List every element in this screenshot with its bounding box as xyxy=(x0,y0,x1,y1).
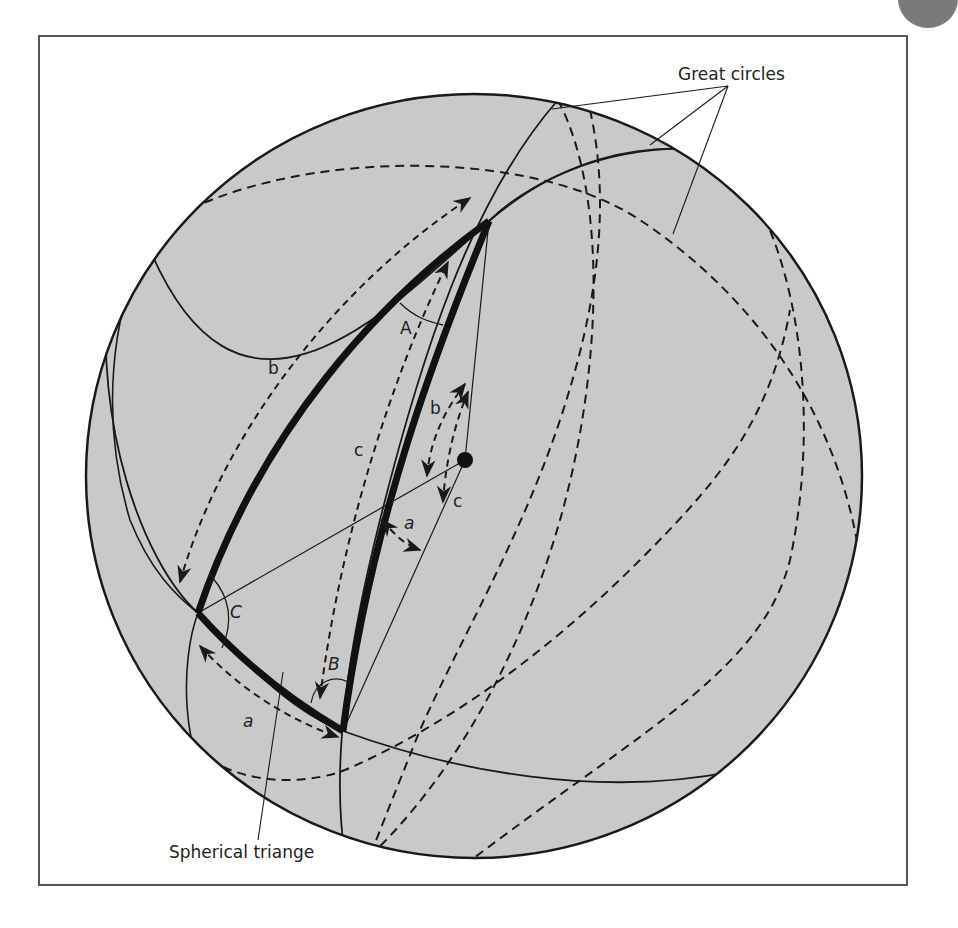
label-center-a: a xyxy=(404,513,414,533)
label-angle-B: B xyxy=(328,654,340,674)
sphere-center-point xyxy=(457,452,473,468)
label-center-b: b xyxy=(430,398,441,418)
label-angle-A: A xyxy=(400,318,412,338)
label-arc-c-outer: c xyxy=(354,440,363,460)
label-angle-C: C xyxy=(230,602,242,622)
label-arc-b-outer: b xyxy=(268,358,279,378)
label-arc-a-outer: a xyxy=(243,711,253,731)
label-great-circles: Great circles xyxy=(678,64,785,84)
sphere xyxy=(86,94,862,858)
label-center-c: c xyxy=(453,491,462,511)
label-spherical-triangle: Spherical triange xyxy=(169,842,314,862)
